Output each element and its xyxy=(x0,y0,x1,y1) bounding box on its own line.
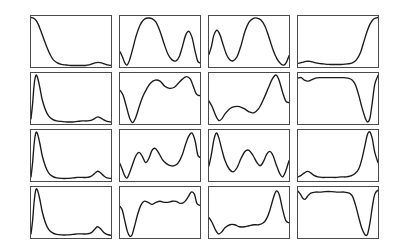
plot-canvas xyxy=(298,187,378,238)
plot-canvas xyxy=(298,16,378,67)
plot-panel-r2c3 xyxy=(208,72,290,125)
plot-panel-r2c1 xyxy=(30,72,112,125)
plot-panel-r4c3 xyxy=(208,186,290,239)
plot-canvas xyxy=(31,16,111,67)
plot-panel-r3c1 xyxy=(30,129,112,182)
plot-panel-r1c3 xyxy=(208,15,290,68)
series-line xyxy=(120,133,200,178)
series-line xyxy=(31,18,111,66)
plot-canvas xyxy=(120,73,200,124)
series-line xyxy=(298,18,378,65)
plot-canvas xyxy=(298,130,378,181)
figure-panel-grid xyxy=(0,0,403,249)
plot-panel-r4c4 xyxy=(297,186,379,239)
plot-panel-r4c2 xyxy=(119,186,201,239)
plot-canvas xyxy=(120,16,200,67)
plot-canvas xyxy=(298,73,378,124)
plot-canvas xyxy=(209,16,289,67)
small-multiples-grid xyxy=(0,0,403,249)
series-line xyxy=(298,76,378,122)
plot-panel-r3c3 xyxy=(208,129,290,182)
plot-canvas xyxy=(31,73,111,124)
plot-canvas xyxy=(31,130,111,181)
plot-canvas xyxy=(209,187,289,238)
series-line xyxy=(209,133,289,177)
series-line xyxy=(298,132,378,178)
plot-panel-r1c4 xyxy=(297,15,379,68)
plot-canvas xyxy=(209,73,289,124)
plot-panel-r3c4 xyxy=(297,129,379,182)
series-line xyxy=(120,192,200,236)
plot-canvas xyxy=(120,130,200,181)
series-line xyxy=(209,75,289,121)
plot-panel-r1c2 xyxy=(119,15,201,68)
series-line xyxy=(209,191,289,234)
plot-canvas xyxy=(120,187,200,238)
plot-canvas xyxy=(31,187,111,238)
plot-panel-r1c1 xyxy=(30,15,112,68)
series-line xyxy=(120,77,200,123)
series-line xyxy=(31,132,111,178)
plot-canvas xyxy=(209,130,289,181)
series-line xyxy=(31,189,111,236)
series-line xyxy=(120,18,200,65)
plot-panel-r3c2 xyxy=(119,129,201,182)
plot-panel-r2c4 xyxy=(297,72,379,125)
plot-panel-r4c1 xyxy=(30,186,112,239)
series-line xyxy=(31,75,111,122)
plot-panel-r2c2 xyxy=(119,72,201,125)
series-line xyxy=(209,18,289,65)
series-line xyxy=(298,190,378,235)
